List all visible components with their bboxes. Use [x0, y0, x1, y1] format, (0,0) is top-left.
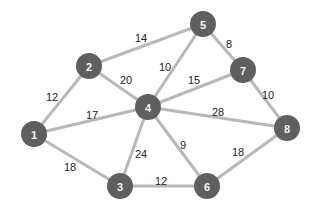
node-4: 4 [135, 94, 161, 120]
edge-2-5 [89, 24, 203, 66]
edge-weight-4-8: 28 [212, 106, 224, 118]
edge-weight-4-3: 24 [135, 148, 147, 160]
node-label-6: 6 [204, 181, 210, 193]
weighted-graph: 12142017181081510282491218 12345678 [0, 0, 312, 215]
node-label-5: 5 [200, 19, 206, 31]
node-label-7: 7 [240, 65, 246, 77]
node-label-3: 3 [117, 181, 123, 193]
node-3: 3 [107, 173, 133, 199]
edge-4-5 [148, 24, 203, 107]
node-6: 6 [194, 173, 220, 199]
edge-weight-4-5: 10 [159, 61, 171, 73]
node-2: 2 [76, 53, 102, 79]
edge-weight-2-5: 14 [135, 32, 147, 44]
edge-weight-4-6: 9 [180, 139, 186, 151]
node-8: 8 [274, 115, 300, 141]
node-label-2: 2 [86, 61, 92, 73]
edge-weight-3-6: 12 [155, 175, 167, 187]
edge-weight-7-8: 10 [262, 89, 274, 101]
edge-1-3 [34, 134, 120, 186]
node-5: 5 [190, 11, 216, 37]
edge-weight-4-7: 15 [188, 74, 200, 86]
edge-weight-5-7: 8 [226, 38, 232, 50]
node-1: 1 [21, 121, 47, 147]
edge-weight-6-8: 18 [232, 146, 244, 158]
edge-6-8 [207, 128, 287, 186]
node-label-1: 1 [31, 129, 37, 141]
node-label-4: 4 [145, 102, 152, 114]
node-7: 7 [230, 57, 256, 83]
edge-weight-2-4: 20 [120, 74, 132, 86]
node-label-8: 8 [284, 123, 290, 135]
edge-weight-1-3: 18 [64, 161, 76, 173]
edge-weight-1-2: 12 [46, 91, 58, 103]
edge-weight-1-4: 17 [86, 109, 98, 121]
